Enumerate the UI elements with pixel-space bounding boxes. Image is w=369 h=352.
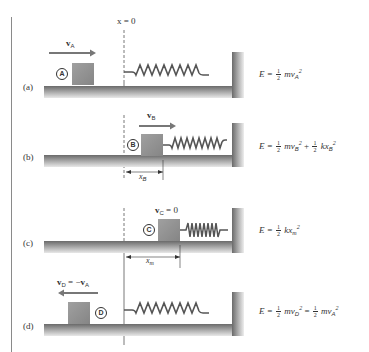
origin-label: x = 0 bbox=[117, 17, 136, 26]
floor-c bbox=[44, 241, 234, 253]
panel-label-d: (d) bbox=[23, 322, 34, 331]
panel-d bbox=[44, 290, 244, 337]
marker-a: A bbox=[56, 68, 68, 80]
floor-a bbox=[44, 86, 234, 98]
panel-label-a: (a) bbox=[23, 83, 33, 92]
energy-equation-d: E = 12 mvD2 = 12 mvA2 bbox=[259, 305, 339, 318]
velocity-label-c: vC = 0 bbox=[155, 206, 178, 216]
block-a bbox=[72, 63, 94, 85]
velocity-label-d: vD = −vA bbox=[57, 278, 89, 288]
panel-label-c: (c) bbox=[23, 239, 33, 248]
block-d bbox=[68, 302, 90, 324]
panel-c bbox=[44, 208, 244, 268]
block-b bbox=[141, 134, 163, 156]
wall-a bbox=[232, 52, 244, 98]
velocity-label-a: vA bbox=[66, 39, 75, 49]
floor-b bbox=[44, 155, 234, 167]
marker-b: B bbox=[127, 139, 139, 151]
wall-d bbox=[232, 292, 244, 336]
spring-a bbox=[124, 65, 209, 75]
floor-d bbox=[44, 324, 234, 336]
marker-d: D bbox=[95, 307, 107, 319]
wall-c bbox=[232, 208, 244, 253]
energy-equation-c: E = 12 kxm2 bbox=[259, 224, 300, 237]
spring-d bbox=[124, 303, 209, 313]
displacement-label-c: xm bbox=[146, 257, 154, 266]
spring-block-diagram bbox=[0, 0, 369, 352]
marker-c: C bbox=[143, 224, 155, 236]
displacement-label-b: xB bbox=[139, 173, 147, 182]
block-c bbox=[158, 219, 180, 241]
panel-a bbox=[44, 50, 244, 99]
panel-b bbox=[44, 123, 244, 181]
velocity-label-b: vB bbox=[147, 111, 156, 121]
spring-b bbox=[163, 138, 227, 148]
wall-b bbox=[232, 123, 244, 167]
spring-c bbox=[180, 223, 228, 237]
energy-equation-b: E = 12 mvB2 + 12 kxB2 bbox=[259, 140, 336, 153]
panel-label-b: (b) bbox=[23, 153, 34, 162]
energy-equation-a: E = 12 mvA2 bbox=[259, 68, 302, 81]
